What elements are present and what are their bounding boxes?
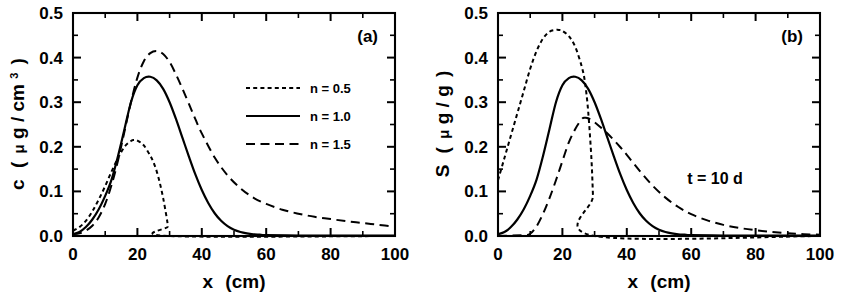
y-axis-mu-b: μ xyxy=(435,130,452,139)
x-tick-labels-b: 020406080100 xyxy=(493,245,834,264)
x-tick-label: 40 xyxy=(617,245,636,264)
y-axis-unit-a: g / cm xyxy=(7,84,28,139)
y-axis-paren-open-b: ( xyxy=(432,146,453,153)
x-tick-label: 100 xyxy=(381,245,409,264)
x-tick-label: 20 xyxy=(553,245,572,264)
x-axis-unit-b: (cm) xyxy=(650,271,690,292)
y-axis-symbol-b: S xyxy=(432,165,453,178)
figure-container: 020406080100 0.00.10.20.30.40.5 (a) x (c… xyxy=(0,0,850,299)
y-axis-paren-close-a: ) xyxy=(7,58,28,64)
y-tick-label: 0.3 xyxy=(464,93,488,112)
y-tick-label: 0.4 xyxy=(39,49,63,68)
y-axis-title-a: c ( μ g / cm 3 ) xyxy=(1,58,28,190)
y-axis-paren-close-b: ) xyxy=(432,71,453,77)
x-axis-title-a: x (cm) xyxy=(203,271,266,292)
plot-frame-b xyxy=(498,13,820,236)
y-tick-label: 0.2 xyxy=(464,138,488,157)
svg-text:x (cm): x (cm) xyxy=(203,271,266,292)
y-tick-label: 0.4 xyxy=(464,49,488,68)
y-axis-unit-b: g / g xyxy=(432,85,453,124)
panel-b: 020406080100 0.00.10.20.30.40.5 (b) t = … xyxy=(425,0,850,299)
panel-label-a: (a) xyxy=(357,27,378,46)
panel-a: 020406080100 0.00.10.20.30.40.5 (a) x (c… xyxy=(0,0,425,299)
y-tick-labels-a: 0.00.10.20.30.40.5 xyxy=(39,4,63,246)
y-tick-label: 0.5 xyxy=(464,4,488,23)
y-tick-label: 0.1 xyxy=(39,182,63,201)
plot-frame-a xyxy=(73,13,395,236)
y-tick-label: 0.3 xyxy=(39,93,63,112)
x-tick-label: 100 xyxy=(806,245,834,264)
curve-n-1-0 xyxy=(73,77,395,236)
curve-n-1-5 xyxy=(498,118,820,236)
y-tick-label: 0.0 xyxy=(464,227,488,246)
x-tick-labels-a: 020406080100 xyxy=(68,245,409,264)
curve-n-0-5 xyxy=(73,140,395,237)
curve-n-1-0 xyxy=(498,77,820,236)
x-tick-label: 60 xyxy=(257,245,276,264)
x-axis-symbol-a: x xyxy=(203,271,214,292)
y-tick-label: 0.0 xyxy=(39,227,63,246)
x-tick-label: 80 xyxy=(321,245,340,264)
y-axis-paren-open-a: ( xyxy=(7,161,28,168)
x-tick-label: 0 xyxy=(68,245,77,264)
svg-text:S ( μ: S ( μ g / g ) xyxy=(432,71,453,178)
x-tick-label: 0 xyxy=(493,245,502,264)
curves-b xyxy=(498,30,820,239)
y-axis-exponent-a: 3 xyxy=(8,73,20,79)
axis-ticks-a xyxy=(73,13,395,236)
y-tick-label: 0.1 xyxy=(464,182,488,201)
legend-label: n = 1.5 xyxy=(310,137,351,152)
legend-label: n = 1.0 xyxy=(310,109,351,124)
y-tick-labels-b: 0.00.10.20.30.40.5 xyxy=(464,4,488,246)
y-axis-mu-a: μ xyxy=(10,144,27,153)
x-axis-unit-a: (cm) xyxy=(225,271,265,292)
x-tick-label: 20 xyxy=(128,245,147,264)
time-annotation-b: t = 10 d xyxy=(687,170,743,187)
x-tick-label: 40 xyxy=(192,245,211,264)
svg-text:c ( μ: c ( μ g / cm 3 ) xyxy=(1,58,28,190)
x-axis-title-b: x (cm) xyxy=(628,271,691,292)
x-tick-label: 60 xyxy=(682,245,701,264)
y-tick-label: 0.5 xyxy=(39,4,63,23)
y-tick-label: 0.2 xyxy=(39,138,63,157)
legend-a: n = 0.5n = 1.0n = 1.5 xyxy=(246,81,351,152)
y-axis-symbol-a: c xyxy=(7,179,28,190)
x-axis-symbol-b: x xyxy=(628,271,639,292)
panel-label-b: (b) xyxy=(781,27,803,46)
axis-ticks-b xyxy=(498,13,820,236)
svg-text:x (cm): x (cm) xyxy=(628,271,691,292)
legend-label: n = 0.5 xyxy=(310,81,351,96)
x-tick-label: 80 xyxy=(746,245,765,264)
y-axis-title-b: S ( μ g / g ) xyxy=(432,71,453,178)
